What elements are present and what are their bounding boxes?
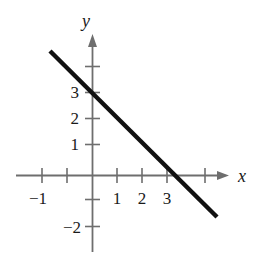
y-axis-arrowhead	[88, 34, 97, 47]
y-tick-label--2: −2	[63, 219, 81, 236]
y-tick-label-1: 1	[71, 136, 80, 153]
x-axis	[16, 168, 229, 183]
x-tick-label-1: 1	[113, 190, 122, 207]
graph-figure: −1 1 2 3 3 2 1 −2 x y	[0, 0, 259, 269]
x-tick-label-2: 2	[138, 190, 147, 207]
x-tick-label--1: −1	[29, 190, 47, 207]
x-tick-label-3: 3	[163, 190, 172, 207]
coordinate-plane-svg	[0, 0, 259, 269]
y-axis	[85, 34, 100, 252]
y-tick-label-2: 2	[71, 110, 80, 127]
y-axis-label: y	[82, 12, 90, 30]
x-axis-arrowhead	[217, 171, 229, 180]
x-axis-label: x	[238, 167, 246, 185]
y-tick-label-3: 3	[71, 84, 80, 101]
